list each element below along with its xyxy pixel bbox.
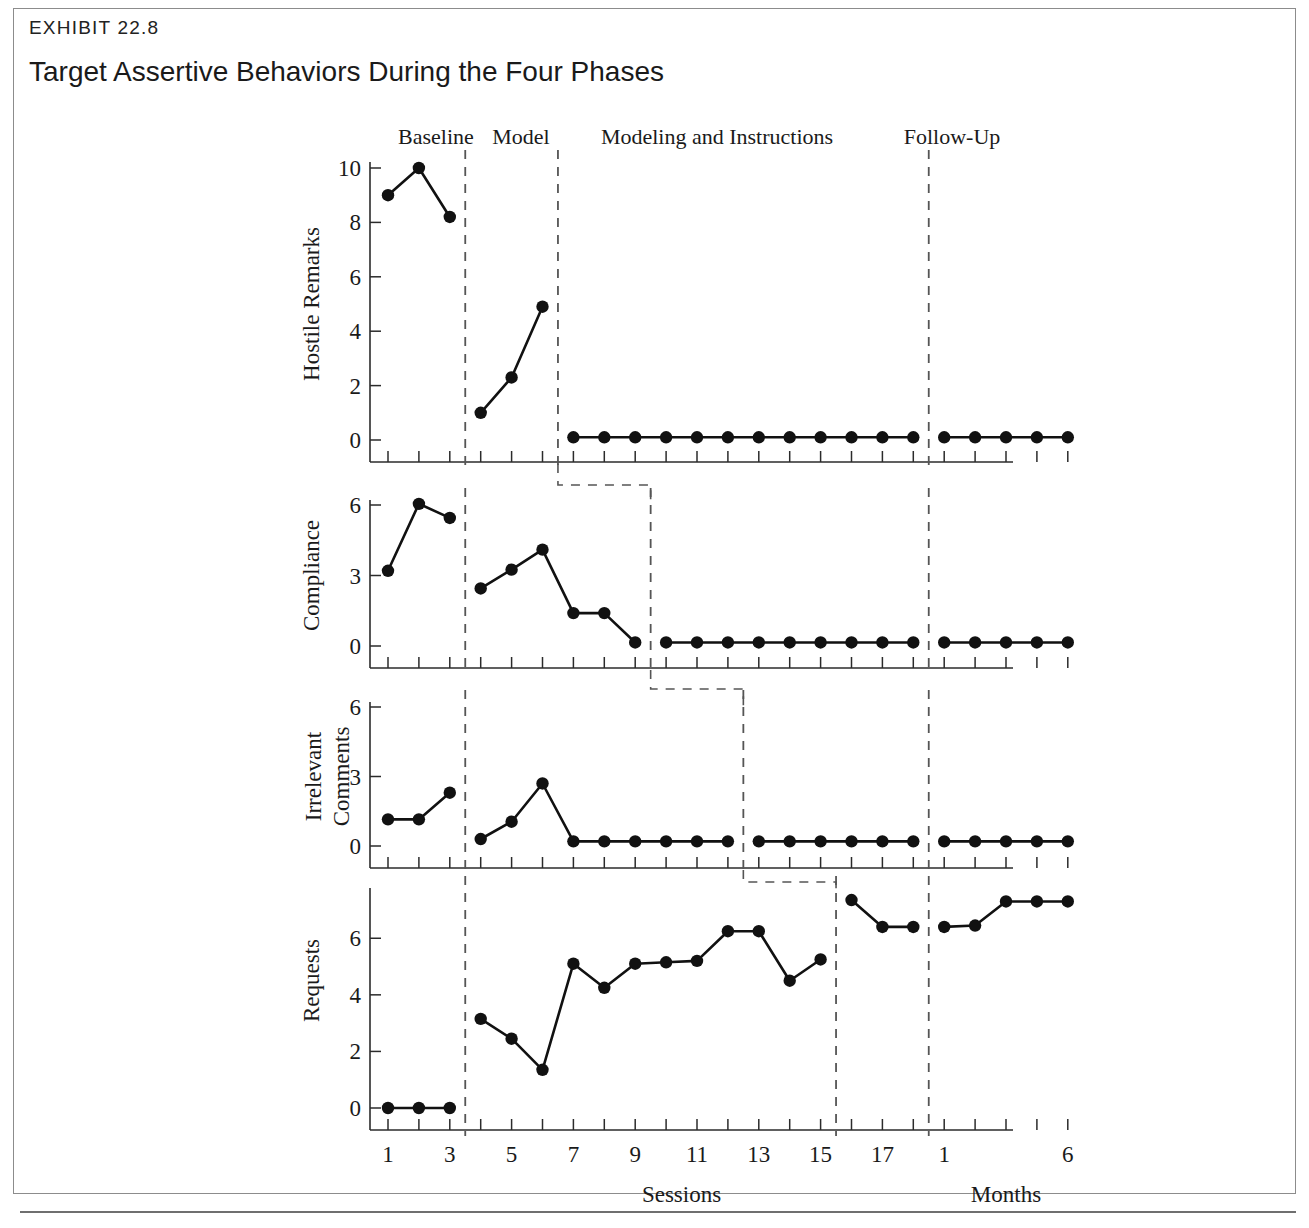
panel-1-data-point: [938, 636, 950, 648]
panel-0-data-point: [784, 431, 796, 443]
panel-3-data-point: [382, 1102, 394, 1114]
panel-1-data-point: [444, 512, 456, 524]
panel-1-data-point: [567, 607, 579, 619]
panel-0-data-point: [814, 431, 826, 443]
panel-0-data-point: [845, 431, 857, 443]
panel-0-data-point: [1031, 431, 1043, 443]
phase-step-connector-0: [558, 464, 651, 506]
panel-3-data-point: [1031, 895, 1043, 907]
panel-0-data-point: [444, 211, 456, 223]
x-axis-label-sessions: Sessions: [642, 1182, 721, 1207]
panel-0-data-point: [629, 431, 641, 443]
panel-0-data-point: [722, 431, 734, 443]
panel-2-ytick-label: 0: [350, 834, 362, 859]
phase-step-connector-1: [651, 670, 744, 708]
panel-0-data-point: [753, 431, 765, 443]
panel-2-data-point: [969, 835, 981, 847]
panel-1-data-point: [505, 563, 517, 575]
panel-3-data-point: [753, 925, 765, 937]
svg-text:Irrelevant: Irrelevant: [301, 731, 326, 821]
panel-0-data-point: [382, 189, 394, 201]
panel-3-data-point: [444, 1102, 456, 1114]
panel-1-data-point: [536, 543, 548, 555]
panel-3-data-point: [876, 921, 888, 933]
panel-2-data-point: [382, 813, 394, 825]
x-axis-label-months: Months: [971, 1182, 1041, 1207]
panel-2-data-point: [938, 835, 950, 847]
panel-2-data-point: [660, 835, 672, 847]
y-axis-label-requests: Requests: [299, 939, 324, 1022]
panel-1-data-point: [475, 582, 487, 594]
panel-0-data-point: [691, 431, 703, 443]
panel-2-data-point: [629, 835, 641, 847]
panel-0-data-point: [907, 431, 919, 443]
panel-0-data-point: [876, 431, 888, 443]
panel-0-segment-1-line: [481, 307, 543, 413]
panel-2-data-point: [907, 835, 919, 847]
panel-1-segment-1-line: [481, 550, 636, 643]
x-tick-label-session-15: 15: [809, 1142, 832, 1167]
panel-1-data-point: [1062, 636, 1074, 648]
x-tick-label-session-3: 3: [444, 1142, 456, 1167]
panel-3-ytick-label: 2: [350, 1039, 362, 1064]
panel-3-data-point: [1000, 895, 1012, 907]
panel-0-segment-0-line: [388, 168, 450, 217]
panel-3-data-point: [691, 955, 703, 967]
panel-3-data-point: [938, 921, 950, 933]
panel-3-data-point: [784, 974, 796, 986]
panel-1-data-point: [660, 636, 672, 648]
panel-3-data-point: [567, 958, 579, 970]
panel-2-data-point: [413, 813, 425, 825]
phase-step-connector-2: [743, 870, 836, 894]
x-tick-label-month-1: 1: [938, 1142, 950, 1167]
exhibit-page: EXHIBIT 22.8 Target Assertive Behaviors …: [0, 0, 1309, 1228]
panel-3-ytick-label: 6: [350, 926, 362, 951]
x-tick-label-month-6: 6: [1062, 1142, 1074, 1167]
panel-0-data-point: [505, 371, 517, 383]
panel-2-data-point: [691, 835, 703, 847]
panel-1-ytick-label: 0: [350, 634, 362, 659]
panel-1-data-point: [753, 636, 765, 648]
panel-2-data-point: [784, 835, 796, 847]
panel-3-data-point: [536, 1064, 548, 1076]
panel-1-data-point: [845, 636, 857, 648]
panel-2-data-point: [814, 835, 826, 847]
panel-1-data-point: [598, 607, 610, 619]
panel-0-data-point: [1000, 431, 1012, 443]
panel-3-data-point: [969, 919, 981, 931]
panel-2-data-point: [598, 835, 610, 847]
panel-3-data-point: [629, 958, 641, 970]
panel-2-data-point: [505, 815, 517, 827]
panel-1-data-point: [722, 636, 734, 648]
panel-2-data-point: [722, 835, 734, 847]
panel-1-segment-0-line: [388, 504, 450, 571]
panel-2-data-point: [753, 835, 765, 847]
panel-2-data-point: [845, 835, 857, 847]
panel-0-data-point: [567, 431, 579, 443]
panel-3-ytick-label: 0: [350, 1096, 362, 1121]
panel-3-data-point: [1062, 895, 1074, 907]
panel-1-ytick-label: 3: [350, 564, 362, 589]
panel-3-segment-1-line: [481, 931, 821, 1070]
panel-1-data-point: [814, 636, 826, 648]
panel-0-data-point: [536, 301, 548, 313]
x-tick-label-session-9: 9: [629, 1142, 641, 1167]
panel-2-data-point: [1000, 835, 1012, 847]
panel-2-data-point: [1062, 835, 1074, 847]
panel-2-segment-1-line: [481, 784, 728, 842]
panel-0-data-point: [413, 162, 425, 174]
panel-0-data-point: [1062, 431, 1074, 443]
panel-0-ytick-label: 4: [350, 319, 362, 344]
panel-0-data-point: [598, 431, 610, 443]
x-tick-label-session-13: 13: [747, 1142, 770, 1167]
x-tick-label-session-7: 7: [568, 1142, 580, 1167]
x-tick-label-session-17: 17: [871, 1142, 894, 1167]
panel-1-data-point: [876, 636, 888, 648]
svg-text:Comments: Comments: [329, 727, 354, 827]
panel-3-ytick-label: 4: [350, 983, 362, 1008]
panel-3-data-point: [907, 921, 919, 933]
panel-3-data-point: [660, 956, 672, 968]
panel-3-data-point: [722, 925, 734, 937]
panel-2-data-point: [567, 835, 579, 847]
panel-0-data-point: [660, 431, 672, 443]
